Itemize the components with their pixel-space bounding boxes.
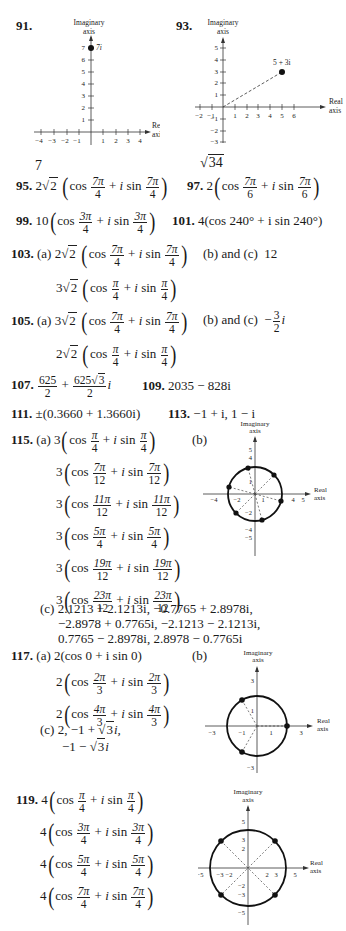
- svg-text:1: 1: [82, 116, 86, 124]
- svg-text:4: 4: [249, 454, 253, 461]
- problem-117-c-line-2: −1 − √3i: [62, 739, 109, 755]
- svg-text:−3: −3: [217, 871, 224, 878]
- svg-text:−5: −5: [245, 534, 252, 541]
- svg-text:−3: −3: [209, 729, 216, 736]
- svg-text:1: 1: [249, 478, 252, 485]
- svg-text:−1: −1: [239, 729, 246, 736]
- real-axis-label: Real: [152, 121, 160, 130]
- svg-text:3: 3: [251, 677, 254, 684]
- svg-text:5: 5: [301, 496, 304, 503]
- svg-text:5: 5: [215, 44, 219, 52]
- imag-axis-label-2: axis: [242, 796, 254, 804]
- imag-axis-label-2: axis: [252, 656, 264, 664]
- svg-text:3: 3: [126, 137, 130, 145]
- real-axis-label: Real: [329, 97, 343, 106]
- imag-axis-label-2: axis: [249, 427, 261, 435]
- problem-105-a2: 2√2 (cos π4 + i sin π4): [56, 342, 178, 368]
- problem-111: 111. ±(0.3660 + 1.3660i): [11, 406, 140, 422]
- point-label: 7i: [96, 43, 102, 52]
- svg-text:1: 1: [233, 112, 237, 120]
- problem-115-part-c: (c) 2.1213 + 2.1213i, −0.7765 + 2.8978i,: [40, 601, 253, 617]
- graph-91: Imaginary axis −4−3−2−1 1234 1234 567 7i…: [30, 15, 160, 155]
- svg-text:2: 2: [114, 137, 118, 145]
- svg-text:3: 3: [256, 112, 260, 120]
- imag-axis-label-2: axis: [217, 27, 229, 36]
- graph-115: Imaginary axis −4−2145 541−2−4−5 Real ax…: [200, 418, 346, 568]
- real-axis-label-2: axis: [317, 725, 329, 733]
- problem-115-root-2: 3(cos 7π12 + i sin 7π12): [56, 460, 171, 486]
- svg-text:−2: −2: [195, 112, 203, 120]
- problem-115-root-5: 3(cos 19π12 + i sin 19π12): [56, 556, 182, 582]
- svg-text:−2: −2: [61, 137, 69, 145]
- svg-text:3: 3: [274, 871, 277, 878]
- svg-text:4: 4: [138, 137, 142, 145]
- problem-119-root-4: 4(cos 7π4 + i sin 7π4): [40, 884, 155, 910]
- svg-text:4: 4: [291, 496, 295, 503]
- imag-axis-label: Imaginary: [208, 18, 239, 27]
- problem-91-answer: 7: [35, 158, 42, 174]
- svg-text:2: 2: [265, 871, 268, 878]
- svg-text:−5: −5: [198, 871, 203, 878]
- svg-text:−4: −4: [211, 496, 219, 503]
- problem-115-root-1: 115. (a) 3(cos π4 + i sin π4): [11, 428, 157, 454]
- svg-text:−2: −2: [234, 496, 241, 503]
- svg-text:4: 4: [268, 112, 272, 120]
- problem-115-root-4: 3(cos 5π4 + i sin 5π4): [56, 524, 171, 550]
- svg-text:5: 5: [293, 871, 296, 878]
- svg-text:−2: −2: [226, 871, 233, 878]
- problem-115-c-line-2: −2.8978 + 0.7765i, −2.1213 − 2.1213i,: [58, 616, 260, 632]
- svg-text:1: 1: [261, 496, 264, 503]
- svg-text:4: 4: [215, 56, 219, 64]
- problem-117-root-2: 2(cos 2π3 + i sin 2π3): [56, 670, 171, 696]
- svg-text:−1: −1: [73, 137, 81, 145]
- imag-axis-label: Imaginary: [74, 18, 105, 27]
- problem-101: 101. 4(cos 240° + i sin 240°): [172, 213, 322, 229]
- svg-text:−2: −2: [245, 509, 252, 516]
- svg-text:5: 5: [242, 818, 245, 825]
- svg-text:−4: −4: [35, 137, 43, 145]
- svg-text:1: 1: [215, 91, 219, 99]
- svg-text:−3: −3: [211, 138, 219, 146]
- graph-119: Imaginary axis −5−3−2235 532−2−3−5 Real …: [198, 785, 346, 930]
- svg-text:−3: −3: [48, 137, 56, 145]
- svg-text:3: 3: [215, 68, 219, 76]
- problem-103-a1: 103. (a) 2√2 (cos 7π4 + i sin 7π4): [11, 242, 188, 268]
- svg-text:−2: −2: [211, 127, 219, 135]
- problem-115-c-line-3: 0.7765 − 2.8978i, 2.8978 − 0.7765i: [58, 631, 242, 647]
- real-axis-label-2: axis: [310, 867, 322, 875]
- imag-axis-label: Imaginary: [234, 788, 263, 796]
- svg-text:−1: −1: [211, 115, 219, 123]
- problem-95: 95. 2√2 (cos 7π4 + i sin 7π4): [16, 174, 169, 200]
- problem-109: 109. 2035 − 828i: [142, 378, 231, 394]
- imag-axis-label-2: axis: [83, 27, 95, 36]
- problem-119-root-2: 4(cos 3π4 + i sin 3π4): [40, 820, 155, 846]
- point-label: 5 + 3i: [273, 58, 291, 67]
- svg-text:7: 7: [82, 44, 86, 52]
- svg-text:5: 5: [249, 446, 252, 453]
- problem-103-a2: 3√2 (cos π4 + i sin π4): [56, 276, 178, 302]
- svg-text:−3: −3: [247, 764, 254, 771]
- problem-117-a1: 117. (a) 2(cos 0 + i sin 0): [11, 648, 142, 664]
- svg-text:2: 2: [242, 845, 245, 852]
- svg-text:1: 1: [251, 707, 254, 714]
- svg-text:6: 6: [82, 56, 86, 64]
- svg-text:2: 2: [82, 104, 86, 112]
- svg-text:3: 3: [242, 836, 245, 843]
- real-axis-label-2: axis: [329, 106, 341, 115]
- svg-text:2: 2: [215, 79, 219, 87]
- problem-117-part-c: (c) 2, −1 + √3i,: [40, 722, 121, 738]
- svg-text:6: 6: [292, 112, 296, 120]
- svg-text:4: 4: [82, 80, 86, 88]
- svg-text:1: 1: [101, 137, 105, 145]
- svg-text:−5: −5: [238, 909, 245, 916]
- problem-93-number: 93.: [176, 18, 192, 34]
- problem-103-bc: (b) and (c) 12: [203, 246, 277, 262]
- problem-105-a1: 105. (a) 3√2 (cos 7π4 + i sin 7π4): [11, 309, 188, 335]
- real-axis-label: Real: [317, 717, 330, 725]
- svg-text:−3: −3: [238, 891, 245, 898]
- problem-99: 99. 10(cos 3π4 + i sin 3π4): [16, 209, 157, 235]
- real-axis-label: Real: [310, 859, 323, 867]
- problem-107: 107. 6252 + 625√32i: [11, 374, 111, 399]
- problem-119-root-3: 4(cos 5π4 + i sin 5π4): [40, 852, 155, 878]
- problem-119-root-1: 119. 4(cos π4 + i sin π4): [16, 788, 144, 814]
